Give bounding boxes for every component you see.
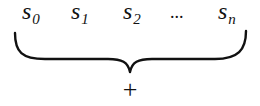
plus-operator: + bbox=[119, 77, 141, 103]
